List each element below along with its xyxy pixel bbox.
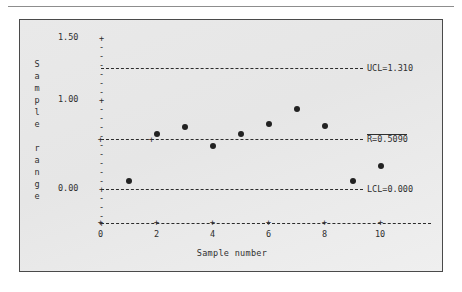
- ucl-line: [101, 68, 363, 69]
- center-line-axis-marker: +: [97, 136, 104, 143]
- x-tick-label-8: 8: [322, 230, 327, 239]
- x-tick-0: +: [97, 219, 104, 226]
- data-point[interactable]: [322, 123, 328, 129]
- y-axis-title-char: p: [32, 96, 42, 105]
- x-tick-label-4: 4: [210, 230, 215, 239]
- y-axis-title-char: S: [32, 60, 42, 69]
- data-point[interactable]: [154, 131, 160, 137]
- page-header-rule: [8, 6, 454, 7]
- center-line: [101, 139, 363, 140]
- data-point[interactable]: [378, 163, 384, 169]
- data-point[interactable]: [210, 143, 216, 149]
- data-point[interactable]: [266, 121, 272, 127]
- data-point[interactable]: [182, 124, 188, 130]
- y-axis-title-char: r: [32, 144, 42, 153]
- lcl-line: [101, 189, 363, 190]
- lcl-label: LCL=0.000: [367, 185, 413, 194]
- x-tick-label-2: 2: [154, 230, 159, 239]
- x-tick-2: +: [153, 219, 160, 226]
- x-tick-label-0: 0: [98, 230, 103, 239]
- y-tick-label-000: 0.00: [58, 184, 78, 193]
- x-tick-8: +: [321, 219, 328, 226]
- x-tick-6: +: [265, 219, 272, 226]
- data-point[interactable]: [126, 178, 132, 184]
- x-axis-title: Sample number: [20, 248, 444, 258]
- x-tick-label-6: 6: [266, 230, 271, 239]
- x-tick-10: +: [377, 219, 384, 226]
- y-axis-title-char: e: [32, 192, 42, 201]
- y-axis-title-char: a: [32, 72, 42, 81]
- x-tick-label-10: 10: [375, 230, 385, 239]
- data-point[interactable]: [294, 106, 300, 112]
- control-chart-panel: S a m p l e r a n g e 1.50 1.00 0.00 + -…: [19, 19, 443, 272]
- data-point[interactable]: [350, 178, 356, 184]
- y-axis-title-char: l: [32, 108, 42, 117]
- center-line-tick: +: [148, 136, 155, 143]
- y-axis-title-char: a: [32, 156, 42, 165]
- y-axis-title-char: n: [32, 168, 42, 177]
- ucl-label: UCL=1.310: [367, 64, 413, 73]
- y-tick-label-100: 1.00: [58, 95, 78, 104]
- y-axis-title-char: g: [32, 180, 42, 189]
- y-axis-title-char: e: [32, 120, 42, 129]
- plot-area: S a m p l e r a n g e 1.50 1.00 0.00 + -…: [20, 20, 444, 273]
- x-tick-4: +: [209, 219, 216, 226]
- data-point[interactable]: [238, 131, 244, 137]
- center-line-label: R=0.5090: [367, 135, 408, 144]
- r-bar-text: R=0.5090: [367, 135, 408, 144]
- y-tick-label-150: 1.50: [58, 33, 78, 42]
- y-axis-title-char: m: [32, 84, 42, 93]
